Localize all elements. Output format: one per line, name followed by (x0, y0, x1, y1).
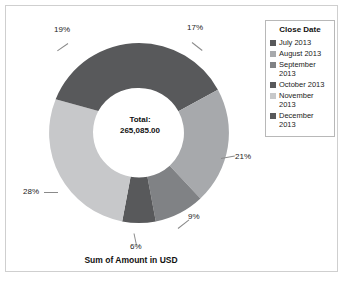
legend-swatch-icon (270, 62, 276, 68)
legend-item-label: December 2013 (279, 111, 330, 129)
pct-label-november: 28% (23, 187, 39, 196)
pct-label-october: 6% (130, 242, 142, 251)
axis-title: Sum of Amount in USD (16, 255, 246, 265)
legend-item-august-2013[interactable]: August 2013 (270, 49, 330, 58)
donut-center-total: Total: 265,085.00 (94, 114, 186, 136)
total-value: 265,085.00 (94, 125, 186, 136)
legend-item-label: September 2013 (279, 60, 330, 78)
donut-chart-area: 17% 19% 21% 28% 9% 6% Total: 265,085.00 (6, 6, 256, 261)
pct-label-july: 17% (187, 23, 203, 32)
legend-swatch-icon (270, 93, 276, 99)
donut-segment-december[interactable] (56, 43, 139, 111)
legend-item-label: October 2013 (279, 80, 324, 89)
legend-item-july-2013[interactable]: July 2013 (270, 38, 330, 47)
legend-item-november-2013[interactable]: November 2013 (270, 91, 330, 109)
leader-line-november (44, 192, 58, 193)
legend-item-december-2013[interactable]: December 2013 (270, 111, 330, 129)
pct-label-september: 9% (188, 212, 200, 221)
legend: Close Date July 2013 August 2013 Septemb… (265, 20, 335, 137)
chart-frame: 17% 19% 21% 28% 9% 6% Total: 265,085.00 … (5, 5, 338, 272)
pct-label-august: 21% (235, 152, 251, 161)
pct-label-december: 19% (54, 25, 70, 34)
legend-swatch-icon (270, 82, 276, 88)
legend-swatch-icon (270, 113, 276, 119)
legend-item-label: November 2013 (279, 91, 330, 109)
legend-item-label: August 2013 (279, 49, 321, 58)
legend-item-september-2013[interactable]: September 2013 (270, 60, 330, 78)
legend-title: Close Date (270, 25, 330, 34)
legend-item-label: July 2013 (279, 38, 311, 47)
legend-item-october-2013[interactable]: October 2013 (270, 80, 330, 89)
total-caption: Total: (94, 114, 186, 125)
legend-swatch-icon (270, 40, 276, 46)
legend-swatch-icon (270, 51, 276, 57)
